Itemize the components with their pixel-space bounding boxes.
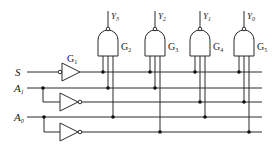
junction-dot-icon <box>203 115 207 119</box>
junction-dot-icon <box>237 70 241 74</box>
inverter-a0 <box>44 117 82 141</box>
inverter-a1 <box>43 88 82 111</box>
inversion-bubble-icon <box>153 27 157 31</box>
junction-dot-icon <box>106 86 110 90</box>
gate-label-g4: G4 <box>213 41 223 53</box>
output-label-y1: Y1 <box>203 11 211 22</box>
junction-dot-icon <box>158 130 162 134</box>
inversion-bubble-icon <box>78 100 82 104</box>
nand-gate-body-icon <box>98 30 118 56</box>
buffer-triangle-icon <box>62 63 80 81</box>
gate-label-g3: G3 <box>168 41 178 53</box>
junction-dot-icon <box>193 70 197 74</box>
gate-label-g5: G5 <box>257 41 267 53</box>
output-label-y0: Y0 <box>247 11 255 22</box>
nand-gate-body-icon <box>234 30 254 56</box>
gate-label-g1: G1 <box>67 53 77 65</box>
nand-gate-body-icon <box>145 30 165 56</box>
inversion-bubble-icon <box>242 27 246 31</box>
inversion-bubble-icon <box>106 27 110 31</box>
input-label-a0: A0 <box>13 111 24 124</box>
junction-dot-icon <box>111 115 115 119</box>
output-label-y3: Y3 <box>111 11 119 22</box>
junction-dot-icon <box>41 86 45 90</box>
inverter-triangle-icon <box>60 123 78 141</box>
gate-label-g2: G2 <box>121 41 131 53</box>
output-label-y2: Y2 <box>158 11 166 22</box>
decoder-circuit-diagram: S A1 A0 G1 G2 G3 G4 G5 Y3 Y2 Y1 Y0 <box>0 0 277 151</box>
junction-dot-icon <box>198 100 202 104</box>
gate-g1 <box>58 63 80 81</box>
input-label-a1: A1 <box>13 82 24 95</box>
nand-gate-body-icon <box>190 30 210 56</box>
inversion-bubble-icon <box>198 27 202 31</box>
inversion-bubble-icon <box>78 130 82 134</box>
junction-dot-icon <box>42 115 46 119</box>
junction-dot-icon <box>101 70 105 74</box>
inversion-bubble-icon <box>58 70 62 74</box>
junction-dot-icon <box>242 100 246 104</box>
junction-dot-icon <box>148 70 152 74</box>
junction-dot-icon <box>247 130 251 134</box>
inverter-triangle-icon <box>60 93 78 111</box>
input-label-s: S <box>15 66 21 78</box>
gate-g2 <box>98 11 118 117</box>
junction-dot-icon <box>153 86 157 90</box>
